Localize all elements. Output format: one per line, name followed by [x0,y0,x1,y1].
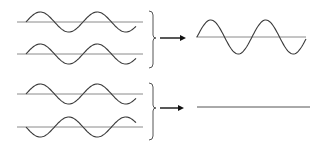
arrow-head-icon [180,35,186,41]
diagram-canvas [0,0,332,147]
arrow-head-icon [178,105,184,111]
brace-icon [149,83,156,140]
interference-diagram [0,0,332,147]
constructive-interference-panel [17,11,306,68]
destructive-interference-panel [17,83,310,140]
brace-icon [149,11,156,68]
